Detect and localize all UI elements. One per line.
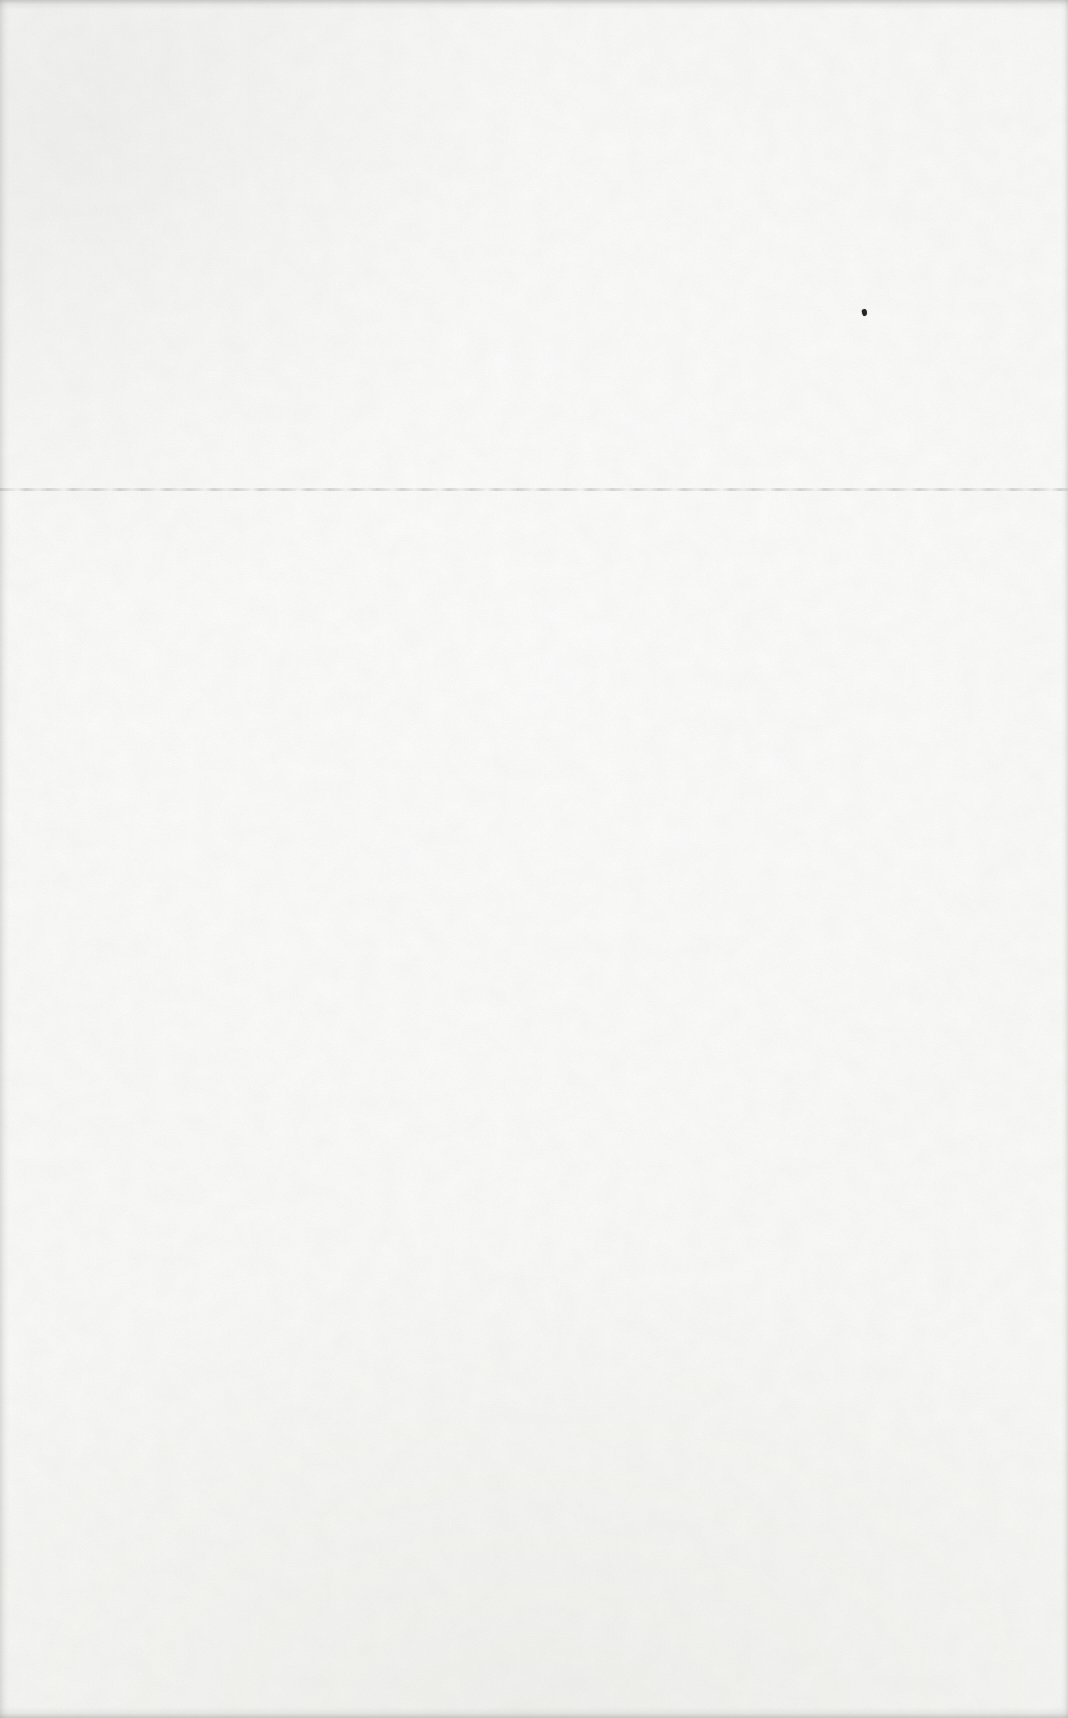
faint-horizontal-rule [0,488,1068,491]
fine-grain-layer [0,0,1068,1718]
scanned-blank-page [0,0,1068,1718]
paper-texture [0,0,1068,1718]
